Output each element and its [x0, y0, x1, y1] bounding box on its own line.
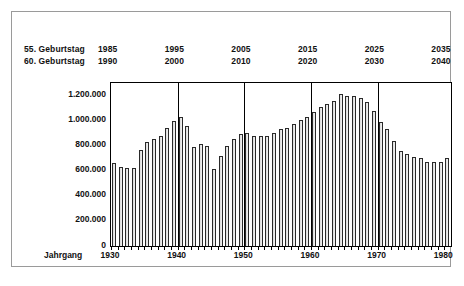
annotation-year-55-2035: 2035	[431, 44, 450, 54]
bar-1948	[232, 139, 236, 246]
x-tick-label-1940: 1940	[157, 250, 197, 260]
x-tick-label-1960: 1960	[290, 250, 330, 260]
bar-1963	[332, 101, 336, 246]
bar-1979	[439, 162, 443, 246]
bar-1949	[239, 134, 243, 246]
bar-1946	[219, 156, 223, 246]
bar-1980	[445, 158, 449, 246]
bar-1947	[225, 146, 229, 246]
bar-1941	[185, 126, 189, 246]
bar-1975	[412, 157, 416, 246]
gridline-1940	[178, 83, 179, 246]
chart-figure: 55. Geburtstag 198519952005201520252035 …	[0, 0, 464, 286]
annotation-year-60-2030: 2030	[365, 56, 384, 66]
bar-1952	[259, 136, 263, 246]
bar-1973	[399, 151, 403, 246]
x-axis-tick-labels: 193019401950196019701980	[0, 250, 464, 264]
bar-1944	[205, 146, 209, 246]
x-tick-label-1930: 1930	[90, 250, 130, 260]
bar-1953	[265, 136, 269, 246]
y-tick-label-600000: 600.000	[30, 164, 106, 174]
y-tick-label-400000: 400.000	[30, 189, 106, 199]
bar-1943	[199, 144, 203, 246]
bar-1940	[179, 117, 183, 246]
bar-1961	[319, 107, 323, 246]
annotation-year-55-2025: 2025	[365, 44, 384, 54]
y-axis-tick-labels: 0200.000400.000600.000800.0001.000.0001.…	[28, 0, 106, 286]
annotation-year-55-1995: 1995	[165, 44, 184, 54]
bar-1950	[245, 133, 249, 246]
bar-1970	[379, 122, 383, 246]
annotation-year-55-2005: 2005	[231, 44, 250, 54]
bar-series	[111, 83, 451, 246]
bar-1958	[299, 120, 303, 246]
bar-1972	[392, 141, 396, 246]
bar-1934	[139, 150, 143, 246]
bar-1971	[385, 129, 389, 246]
annotation-year-60-2000: 2000	[165, 56, 184, 66]
gridline-1960	[311, 83, 312, 246]
bar-1959	[305, 117, 309, 246]
bar-1957	[292, 124, 296, 246]
bar-1937	[159, 136, 163, 246]
bar-1945	[212, 169, 216, 246]
bar-1977	[425, 162, 429, 246]
bar-1930	[112, 163, 116, 246]
bar-1976	[419, 158, 423, 246]
bar-1942	[192, 147, 196, 246]
bar-1969	[372, 111, 376, 246]
bar-1935	[145, 142, 149, 246]
gridline-1970	[378, 83, 379, 246]
bar-1965	[345, 96, 349, 246]
x-tick-label-1970: 1970	[357, 250, 397, 260]
bar-1932	[125, 168, 129, 246]
x-tick-label-1980: 1980	[423, 250, 463, 260]
plot-area	[110, 82, 452, 247]
bar-1966	[352, 96, 356, 246]
x-tick-label-1950: 1950	[223, 250, 263, 260]
bar-1955	[279, 129, 283, 246]
bar-1951	[252, 136, 256, 246]
y-tick-label-200000: 200.000	[30, 214, 106, 224]
bar-1938	[165, 128, 169, 246]
annotation-year-55-2015: 2015	[298, 44, 317, 54]
bar-1954	[272, 133, 276, 246]
bar-1956	[285, 128, 289, 246]
bar-1931	[119, 167, 123, 246]
bar-1967	[359, 98, 363, 246]
y-tick-label-800000: 800.000	[30, 139, 106, 149]
bar-1974	[405, 154, 409, 246]
annotation-year-60-2010: 2010	[231, 56, 250, 66]
y-tick-label-0: 0	[30, 240, 106, 250]
bar-1978	[432, 162, 436, 246]
bar-1960	[312, 112, 316, 246]
bar-1962	[325, 104, 329, 246]
y-tick-label-1200000: 1.200.000	[30, 89, 106, 99]
bar-1939	[172, 121, 176, 246]
annotation-year-60-2040: 2040	[431, 56, 450, 66]
y-tick-label-1000000: 1.000.000	[30, 114, 106, 124]
bar-1968	[365, 102, 369, 246]
annotation-year-60-2020: 2020	[298, 56, 317, 66]
bar-1933	[132, 168, 136, 246]
bar-1964	[339, 94, 343, 246]
gridline-1950	[244, 83, 245, 246]
bar-1936	[152, 139, 156, 246]
